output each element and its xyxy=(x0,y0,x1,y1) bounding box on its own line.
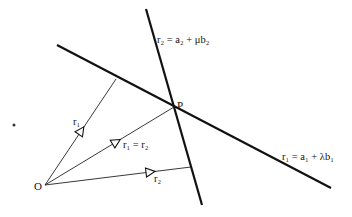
label-line1-equation: r₁ = a₁ + λb₁ xyxy=(282,151,334,162)
label-r1-eq-r2: r₁ = r₂ xyxy=(123,139,149,150)
label-point-P: P xyxy=(177,99,183,111)
vector-r2 xyxy=(45,167,191,185)
arrow-r1-eq-r2-icon xyxy=(110,136,122,148)
stray-dot xyxy=(13,124,16,127)
label-point-O: O xyxy=(34,180,42,192)
vector-lines-diagram: r₂ = a₂ + μb₂ r₁ = a₁ + λb₁ P O r₁ r₁ = … xyxy=(0,0,352,217)
line-1 xyxy=(57,45,331,188)
label-line2-equation: r₂ = a₂ + μb₂ xyxy=(157,34,210,45)
label-r2: r₂ xyxy=(154,173,161,184)
label-r1: r₁ xyxy=(73,116,80,127)
